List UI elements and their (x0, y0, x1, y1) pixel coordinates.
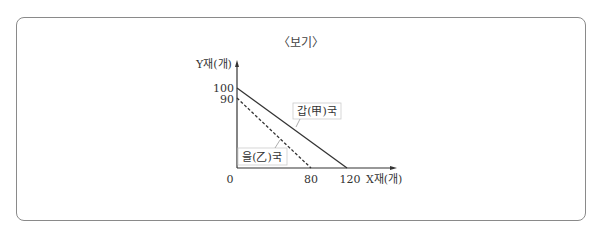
y-axis-arrow-icon (235, 60, 239, 67)
eul-leader-line (275, 140, 280, 148)
x-tick-120: 120 (340, 173, 361, 186)
x-tick-80: 80 (304, 173, 318, 186)
x-axis-arrow-icon (390, 166, 397, 170)
ppf-chart: 100 90 0 80 120 X재(개) Y재(개) 갑(甲)국 을(乙)국 (0, 0, 602, 236)
y-tick-90: 90 (220, 93, 234, 106)
y-axis-label: Y재(개) (195, 58, 232, 71)
eul-label: 을(乙)국 (242, 151, 282, 164)
origin-label: 0 (227, 173, 234, 186)
x-axis-label: X재(개) (366, 173, 402, 186)
gap-leader-line (296, 119, 300, 127)
gap-label: 갑(甲)국 (297, 105, 337, 118)
